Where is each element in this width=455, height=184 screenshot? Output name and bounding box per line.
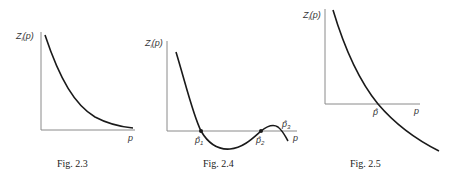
- figure-2-4: Zi(p) p p̂1 p̂2 p̂3 Fig. 2.4: [144, 38, 298, 169]
- curve: [333, 10, 439, 151]
- root-label-3: p̂3: [281, 119, 291, 130]
- root-label-2: p̂2: [255, 135, 265, 146]
- figure-canvas: Zi(p) p Fig. 2.3 Zi(p) p p̂1 p̂2 p̂3 Fig…: [0, 0, 455, 184]
- x-axis-label: p: [413, 106, 419, 116]
- root-point-2: [259, 129, 263, 133]
- root-point-1: [199, 129, 203, 133]
- curve: [176, 52, 288, 149]
- x-axis-label: p: [127, 133, 133, 143]
- figure-caption: Fig. 2.3: [57, 158, 88, 169]
- curve: [45, 35, 133, 128]
- figure-2-5: Zi(p) p p̂ Fig. 2.5: [302, 9, 439, 169]
- figure-caption: Fig. 2.4: [203, 158, 234, 169]
- y-axis-label: Zi(p): [15, 31, 34, 42]
- root-label: p̂: [372, 107, 378, 117]
- root-label-1: p̂1: [194, 135, 203, 146]
- figure-caption: Fig. 2.5: [350, 158, 381, 169]
- y-axis-label: Zi(p): [302, 10, 321, 21]
- y-axis-label: Zi(p): [144, 38, 163, 49]
- figure-2-3: Zi(p) p Fig. 2.3: [15, 31, 135, 169]
- x-axis-label: p: [292, 133, 298, 143]
